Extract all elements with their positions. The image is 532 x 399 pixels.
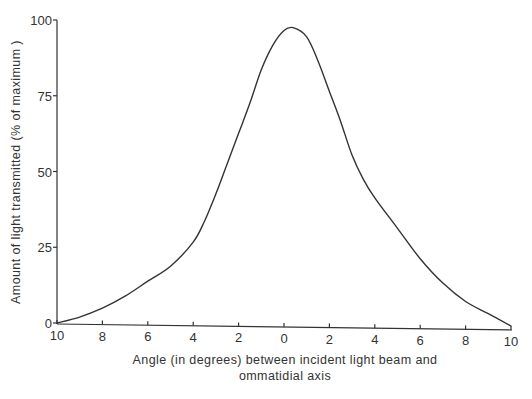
x-tick-label: 0 — [280, 331, 287, 346]
x-tick-label: 2 — [326, 332, 333, 347]
x-tick-label: 4 — [371, 332, 378, 347]
y-tick-label: 75 — [38, 89, 52, 104]
y-tick-label: 100 — [30, 13, 52, 28]
transmission-curve — [57, 27, 511, 326]
x-tick-label: 6 — [144, 329, 151, 344]
x-tick-label: 6 — [417, 333, 424, 348]
x-tick-label: 4 — [190, 330, 197, 345]
y-tick-label: 25 — [38, 240, 52, 255]
y-tick-label: 50 — [38, 165, 52, 180]
x-tick-label: 8 — [99, 329, 106, 344]
x-axis-title-line-2: ommatidial axis — [239, 369, 331, 383]
x-tick-label: 2 — [235, 330, 242, 345]
x-tick-label: 8 — [462, 333, 469, 348]
y-axis-title: Amount of light transmitted (% of maximu… — [9, 40, 23, 304]
y-ticks: 0255075100 — [30, 13, 57, 331]
x-axis-title-line-1: Angle (in degrees) between incident ligh… — [133, 353, 438, 367]
chart: 0255075100 1086420246810 Amount of light… — [0, 0, 532, 399]
x-tick-label: 10 — [504, 334, 518, 349]
x-tick-label: 10 — [50, 328, 64, 343]
